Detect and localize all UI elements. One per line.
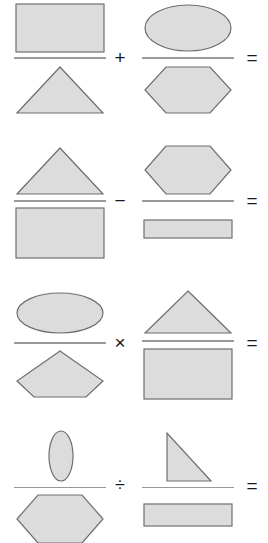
plus-operator: + [108, 48, 132, 67]
shape-rectangle [142, 347, 234, 401]
fraction-bar [14, 487, 106, 488]
fraction-bar [14, 57, 106, 59]
fraction-bar [142, 340, 234, 342]
fraction-bar [142, 487, 234, 488]
shape-right-triangle [142, 430, 234, 484]
shape-triangle [14, 145, 106, 197]
right-fraction [142, 430, 234, 542]
shape-rectangle [14, 2, 106, 54]
fraction-bar [14, 342, 106, 344]
divide-operator: ÷ [108, 476, 132, 494]
expression-row-1: + = [0, 0, 268, 130]
fraction-bar [14, 200, 106, 202]
shape-hexagon [14, 493, 106, 543]
left-fraction [14, 0, 106, 120]
shape-thin-rectangle [142, 218, 234, 242]
expression-row-2: − = [0, 143, 268, 268]
shape-triangle [142, 288, 234, 336]
left-fraction [14, 288, 106, 408]
right-fraction [142, 0, 234, 120]
equals-sign: = [240, 476, 264, 495]
fraction-bar [142, 57, 234, 59]
right-fraction [142, 143, 234, 263]
right-fraction [142, 288, 234, 408]
minus-operator: − [108, 191, 132, 210]
shape-triangle [14, 64, 106, 116]
equals-sign: = [240, 333, 264, 352]
left-fraction [14, 143, 106, 263]
shape-rectangle [14, 206, 106, 260]
shape-pentagon [14, 348, 106, 400]
equals-sign: = [240, 191, 264, 210]
expression-row-3: × = [0, 288, 268, 413]
shape-ellipse [14, 290, 106, 336]
shape-thin-rectangle [142, 502, 234, 530]
shape-hexagon [142, 64, 234, 116]
expression-row-4: ÷ = [0, 430, 268, 542]
fraction-bar [142, 200, 234, 202]
equals-sign: = [240, 48, 264, 67]
multiply-operator: × [108, 333, 132, 352]
shape-narrow-ellipse [14, 430, 106, 484]
shape-hexagon [142, 143, 234, 197]
left-fraction [14, 430, 106, 542]
shape-ellipse [142, 2, 234, 54]
